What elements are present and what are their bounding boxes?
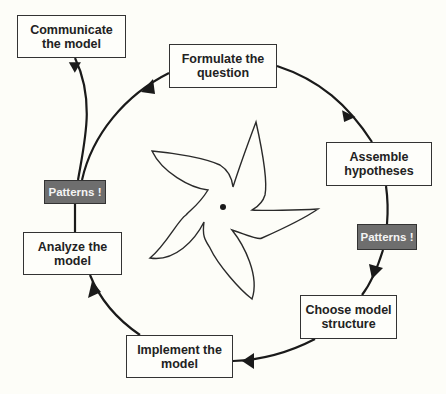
step-label: the model xyxy=(42,37,101,51)
step-label: Assemble xyxy=(349,150,408,164)
step-implement: Implement the model xyxy=(126,335,233,378)
step-communicate: Communicate the model xyxy=(17,15,126,58)
arrow-implement-to-analyze xyxy=(90,275,140,335)
arrowhead-icon xyxy=(369,264,383,279)
arrowhead-icon xyxy=(242,353,254,369)
step-label: structure xyxy=(321,317,375,331)
arrow-choose-to-implement xyxy=(233,339,315,361)
arrow-patterns-to-formulate xyxy=(82,73,169,180)
step-assemble: Assemble hypotheses xyxy=(326,142,432,186)
step-analyze: Analyze the model xyxy=(23,232,122,275)
step-choose-structure: Choose model structure xyxy=(300,295,397,339)
step-label: question xyxy=(197,66,249,80)
arrow-formulate-to-assemble xyxy=(277,66,372,142)
step-label: Implement the xyxy=(137,343,222,357)
step-label: Choose model xyxy=(305,303,391,317)
arrow-patterns-to-communicate xyxy=(75,58,87,180)
arrowhead-icon xyxy=(141,79,155,94)
step-label: Analyze the xyxy=(38,240,107,254)
patterns-label: Patterns ! xyxy=(48,186,101,198)
patterns-label: Patterns ! xyxy=(360,231,413,243)
step-label: hypotheses xyxy=(344,164,413,178)
step-label: model xyxy=(54,254,91,268)
starfish-icon xyxy=(150,122,318,299)
patterns-badge-right: Patterns ! xyxy=(357,224,417,250)
connector-assemble-to-patterns xyxy=(386,186,388,224)
step-label: Communicate xyxy=(30,23,113,37)
arrowhead-icon xyxy=(342,108,356,122)
patterns-badge-left: Patterns ! xyxy=(44,180,106,204)
step-label: Formulate the xyxy=(182,52,265,66)
step-label: model xyxy=(161,357,198,371)
step-formulate: Formulate the question xyxy=(169,44,277,88)
center-dot-icon xyxy=(220,204,226,210)
